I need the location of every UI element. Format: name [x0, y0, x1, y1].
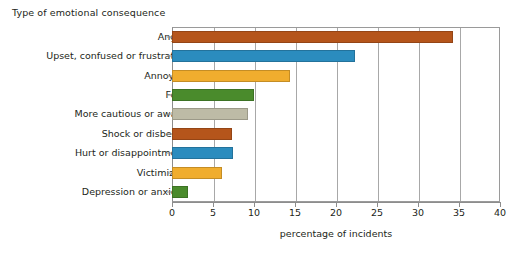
bar	[172, 31, 453, 43]
bar	[172, 128, 232, 140]
value-tick-label: 25	[371, 208, 383, 218]
bar-row: Upset, confused or frustrated	[0, 46, 531, 65]
bar-row: Victimized	[0, 163, 531, 182]
bar-row: More cautious or aware	[0, 105, 531, 124]
bar	[172, 70, 290, 82]
category-axis-title: Type of emotional consequence	[12, 7, 165, 18]
bar-rows: AngerUpset, confused or frustratedAnnoye…	[0, 27, 531, 202]
value-tick-label: 15	[289, 208, 301, 218]
bar	[172, 147, 233, 159]
bar-row: Shock or disbelief	[0, 124, 531, 143]
value-tick-label: 10	[248, 208, 260, 218]
bar-row: Fear	[0, 85, 531, 104]
value-tick-label: 40	[494, 208, 506, 218]
bar	[172, 89, 254, 101]
category-label: Upset, confused or frustrated	[46, 51, 186, 61]
bar-row: Annoyed	[0, 66, 531, 85]
bar	[172, 167, 222, 179]
value-tick-label: 20	[330, 208, 342, 218]
value-tick-label: 0	[169, 208, 175, 218]
bar-row: Anger	[0, 27, 531, 46]
bar-row: Depression or anxiety	[0, 183, 531, 202]
value-tick-label: 5	[210, 208, 216, 218]
bar	[172, 50, 355, 62]
bar-row: Hurt or disappointment	[0, 144, 531, 163]
value-tick-label: 35	[453, 208, 465, 218]
value-tick-label: 30	[412, 208, 424, 218]
value-axis-title: percentage of incidents	[172, 228, 500, 239]
bar	[172, 186, 188, 198]
bar-chart: Type of emotional consequence AngerUpset…	[0, 0, 531, 259]
bar	[172, 108, 248, 120]
